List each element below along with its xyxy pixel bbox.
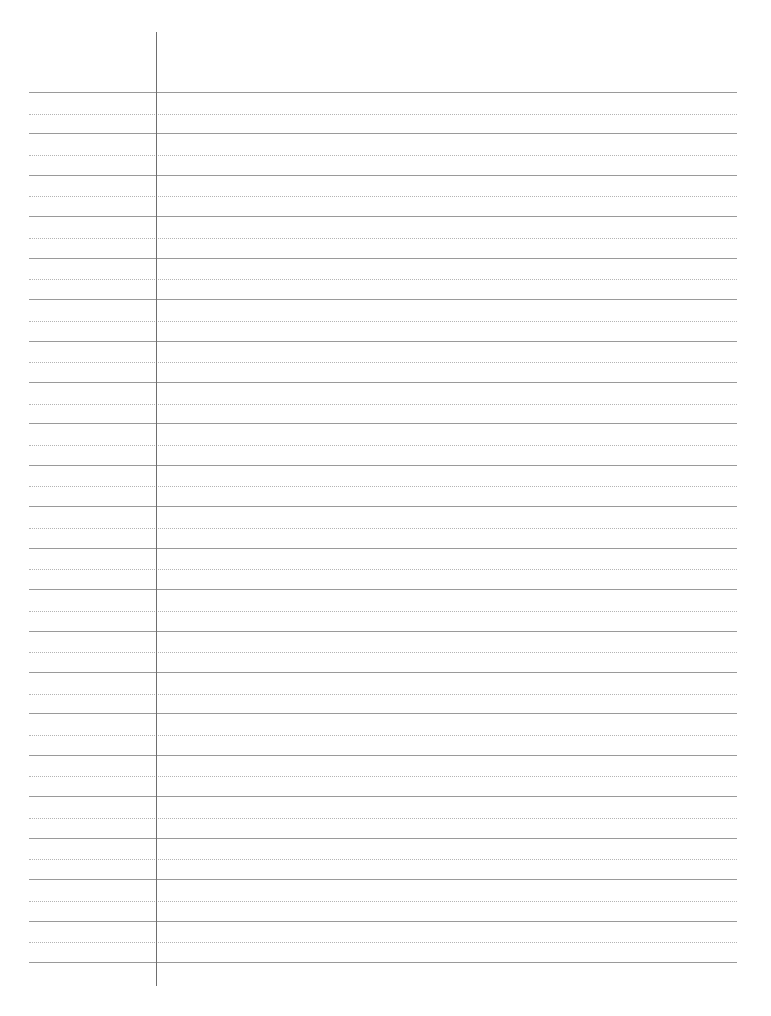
solid-rule-line [29, 506, 737, 507]
dotted-guide-line [29, 238, 737, 239]
solid-rule-line [29, 838, 737, 839]
dotted-guide-line [29, 155, 737, 156]
dotted-guide-line [29, 114, 737, 115]
margin-line [156, 32, 157, 986]
dotted-guide-line [29, 818, 737, 819]
solid-rule-line [29, 299, 737, 300]
dotted-guide-line [29, 321, 737, 322]
dotted-guide-line [29, 901, 737, 902]
solid-rule-line [29, 921, 737, 922]
solid-rule-line [29, 216, 737, 217]
solid-rule-line [29, 175, 737, 176]
dotted-guide-line [29, 694, 737, 695]
solid-rule-line [29, 796, 737, 797]
solid-rule-line [29, 589, 737, 590]
solid-rule-line [29, 548, 737, 549]
solid-rule-line [29, 92, 737, 93]
dotted-guide-line [29, 611, 737, 612]
solid-rule-line [29, 465, 737, 466]
dotted-guide-line [29, 528, 737, 529]
dotted-guide-line [29, 652, 737, 653]
solid-rule-line [29, 879, 737, 880]
dotted-guide-line [29, 859, 737, 860]
solid-rule-line [29, 423, 737, 424]
solid-rule-line [29, 133, 737, 134]
solid-rule-line [29, 962, 737, 963]
solid-rule-line [29, 382, 737, 383]
dotted-guide-line [29, 735, 737, 736]
lined-paper-page [0, 0, 771, 1016]
solid-rule-line [29, 755, 737, 756]
solid-rule-line [29, 258, 737, 259]
dotted-guide-line [29, 362, 737, 363]
solid-rule-line [29, 631, 737, 632]
dotted-guide-line [29, 569, 737, 570]
dotted-guide-line [29, 196, 737, 197]
solid-rule-line [29, 341, 737, 342]
dotted-guide-line [29, 404, 737, 405]
solid-rule-line [29, 713, 737, 714]
dotted-guide-line [29, 486, 737, 487]
dotted-guide-line [29, 942, 737, 943]
dotted-guide-line [29, 279, 737, 280]
solid-rule-line [29, 672, 737, 673]
dotted-guide-line [29, 776, 737, 777]
dotted-guide-line [29, 445, 737, 446]
